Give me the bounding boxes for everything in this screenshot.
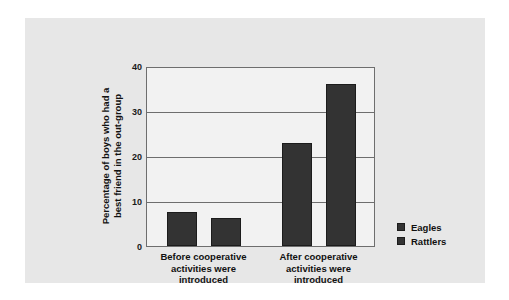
y-tick-10: 10: [112, 198, 142, 207]
legend-swatch-icon-eagles: [397, 223, 405, 231]
chart-panel: Percentage of boys who had a best friend…: [25, 18, 485, 283]
bar-eagles-before: [167, 212, 197, 246]
bar-rattlers-after: [326, 84, 356, 246]
x-category-label-before: Before cooperative activities were intro…: [146, 251, 261, 286]
y-tick-20: 20: [112, 153, 142, 162]
plot-area: [146, 67, 375, 247]
y-axis-tick-labels: 40 30 20 10 0: [110, 67, 142, 247]
x-category-1-line-3: introduced: [261, 274, 376, 286]
bars-layer: [147, 68, 374, 246]
x-category-label-after: After cooperative activities were introd…: [261, 251, 376, 286]
y-tick-30: 30: [112, 108, 142, 117]
legend-swatch-icon-rattlers: [397, 237, 405, 245]
y-tick-40: 40: [112, 63, 142, 72]
bar-eagles-after: [282, 143, 312, 247]
x-category-1-line-1: After cooperative: [261, 251, 376, 263]
chart-figure: Percentage of boys who had a best friend…: [0, 0, 509, 300]
bar-rattlers-before: [211, 218, 241, 246]
legend-label-rattlers: Rattlers: [411, 236, 446, 247]
legend-item-rattlers: Rattlers: [397, 234, 446, 248]
y-tick-0: 0: [112, 243, 142, 252]
x-category-0-line-1: Before cooperative: [146, 251, 261, 263]
chart-legend: Eagles Rattlers: [397, 220, 446, 248]
x-category-1-line-2: activities were: [261, 263, 376, 275]
x-category-0-line-2: activities were: [146, 263, 261, 275]
legend-item-eagles: Eagles: [397, 220, 446, 234]
x-category-0-line-3: introduced: [146, 274, 261, 286]
legend-label-eagles: Eagles: [411, 222, 442, 233]
